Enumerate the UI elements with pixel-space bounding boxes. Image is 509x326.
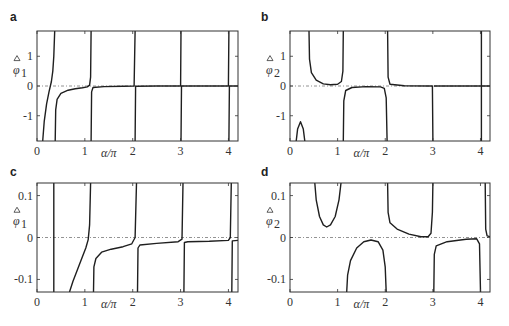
x-axis-label-c: α/π	[101, 297, 118, 311]
hat-icon-b	[267, 56, 273, 61]
x-tick-label-d: 1	[335, 295, 341, 309]
figure-canvas: 01234-101α/πφ101234-101α/πφ201234-0.100.…	[0, 0, 509, 326]
x-tick-label-a: 3	[178, 144, 184, 158]
x-tick-label-c: 1	[82, 295, 88, 309]
curve-d-branch-2	[347, 240, 387, 292]
curve-d-branch-5	[485, 183, 490, 237]
y-tick-label-c: 0.1	[18, 189, 33, 203]
y-axis-subscript-b: 2	[274, 66, 280, 80]
x-tick-label-c: 0	[34, 295, 40, 309]
y-axis-subscript-c: 1	[21, 217, 27, 231]
x-tick-label-c: 2	[130, 295, 136, 309]
curve-a-branch-5	[181, 31, 229, 141]
curve-a-branch-1	[43, 31, 55, 141]
curve-c-branch-6	[232, 240, 238, 292]
hat-icon-c	[14, 207, 20, 212]
x-axis-label-b: α/π	[354, 146, 371, 160]
x-tick-label-d: 0	[287, 295, 293, 309]
curve-b-branch-2	[309, 31, 343, 85]
y-tick-label-b: -1	[276, 109, 286, 123]
curve-d-branch-3	[388, 183, 433, 237]
hat-icon-d	[267, 207, 273, 212]
x-axis-label-d: α/π	[354, 297, 371, 311]
x-tick-label-d: 3	[430, 295, 436, 309]
y-axis-label-d: φ	[266, 214, 273, 228]
x-tick-label-b: 2	[382, 144, 388, 158]
y-tick-label-b: 0	[280, 79, 286, 93]
x-tick-label-c: 4	[225, 295, 231, 309]
y-tick-label-d: 0	[280, 231, 286, 245]
x-tick-label-a: 0	[34, 144, 40, 158]
x-tick-label-c: 3	[178, 295, 184, 309]
x-tick-label-a: 2	[130, 144, 136, 158]
y-tick-label-a: 0	[27, 79, 33, 93]
x-tick-label-b: 1	[335, 144, 341, 158]
curve-d-branch-1	[315, 183, 341, 227]
y-tick-label-b: 1	[280, 49, 286, 63]
y-tick-label-d: 0.1	[271, 189, 286, 203]
y-tick-label-c: -0.1	[14, 272, 33, 286]
y-axis-subscript-a: 1	[21, 66, 27, 80]
x-tick-label-b: 0	[287, 144, 293, 158]
x-tick-label-d: 2	[382, 295, 388, 309]
curve-a-branch-3	[91, 31, 135, 141]
curve-b-branch-3	[343, 87, 387, 141]
y-tick-label-c: 0	[27, 231, 33, 245]
x-tick-label-d: 4	[477, 295, 483, 309]
y-tick-label-a: 1	[27, 49, 33, 63]
x-axis-label-a: α/π	[101, 146, 118, 160]
y-axis-subscript-d: 2	[274, 217, 280, 231]
x-tick-label-a: 1	[82, 144, 88, 158]
curve-a-branch-6	[229, 86, 238, 141]
x-tick-label-b: 4	[477, 144, 483, 158]
curve-a-branch-4	[135, 31, 181, 141]
curve-c-branch-4	[138, 183, 184, 292]
hat-icon-a	[14, 56, 20, 61]
y-tick-label-a: -1	[23, 109, 33, 123]
y-axis-label-b: φ	[266, 63, 273, 77]
y-axis-label-c: φ	[13, 214, 20, 228]
curve-d-branch-4	[434, 239, 481, 292]
curve-b-branch-1	[296, 122, 305, 141]
y-tick-label-d: -0.1	[267, 272, 286, 286]
x-tick-label-a: 4	[225, 144, 231, 158]
x-tick-label-b: 3	[430, 144, 436, 158]
y-axis-label-a: φ	[13, 63, 20, 77]
